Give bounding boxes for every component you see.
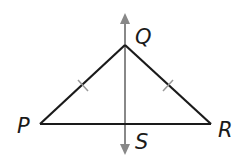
line-qs: [120, 13, 130, 155]
label-q: Q: [135, 25, 152, 49]
arrow-up-icon: [120, 13, 130, 24]
label-s: S: [135, 130, 148, 154]
geometry-diagram: Q P R S: [0, 0, 248, 163]
label-p: P: [17, 114, 30, 138]
arrow-down-icon: [120, 144, 130, 155]
label-r: R: [218, 118, 233, 142]
